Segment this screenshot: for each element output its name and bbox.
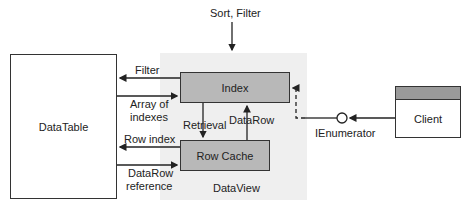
datarow-edge-label: DataRow [229,114,274,126]
row-index-label: Row index [124,133,175,145]
indexes-label: indexes [130,111,168,123]
array-of-label: Array of [130,98,169,110]
dataview-label: DataView [213,182,260,194]
ienumerator-label: IEnumerator [315,127,376,139]
sort-filter-label: Sort, Filter [210,7,261,19]
connector-lines [0,0,468,209]
retrieval-label: Retrieval [183,119,226,131]
datarow-ref-label-2: reference [126,180,172,192]
filter-edge-label: Filter [135,64,159,76]
datarow-ref-label-1: DataRow [128,167,173,179]
